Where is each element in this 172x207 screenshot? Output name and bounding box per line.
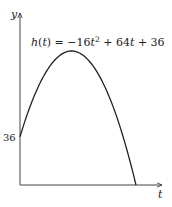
eq-const: + 36 (134, 36, 164, 49)
parabola-chart: y t 36 h(t) = −16t2 + 64t + 36 (0, 0, 172, 207)
x-axis-label: t (158, 188, 163, 201)
eq-h: h (31, 36, 38, 49)
equation-label: h(t) = −16t2 + 64t + 36 (31, 35, 165, 49)
y-axis-label: y (10, 8, 18, 21)
y-tick-label-36: 36 (3, 132, 16, 143)
eq-coef-b: + 64 (100, 36, 130, 49)
curve-h-of-t (20, 51, 136, 185)
eq-coef-a: = −16 (51, 36, 90, 49)
